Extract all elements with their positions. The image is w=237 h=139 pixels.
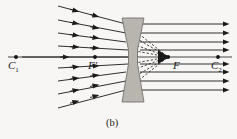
diverging-lens <box>122 18 144 102</box>
ray-diagram-svg <box>0 0 237 139</box>
label-c2: C2 <box>211 60 222 74</box>
optics-figure: C1 F' F C2 (b) <box>0 0 237 139</box>
incident-ray-arrowheads <box>60 14 96 97</box>
label-f-prime: F' <box>88 60 97 71</box>
incident-rays <box>22 6 129 108</box>
incident-ray-arrowheads-outer <box>70 9 76 103</box>
label-f: F <box>173 60 180 71</box>
label-c1: C1 <box>8 60 19 74</box>
focus-convergence-wedge <box>158 50 169 64</box>
figure-caption: (b) <box>106 117 118 128</box>
